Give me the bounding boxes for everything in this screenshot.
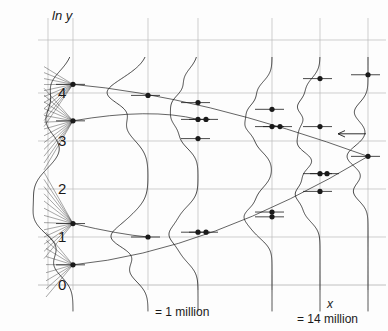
y-tick-label-0: 0 xyxy=(58,276,66,293)
y-axis-label: ln y xyxy=(52,8,72,23)
data-point-markers xyxy=(70,72,370,267)
y-tick-label-1: 1 xyxy=(58,228,66,245)
y-tick-label-3: 3 xyxy=(58,132,66,149)
scientific-figure: ln y 4 3 2 1 0 = 1 million x = 14 millio… xyxy=(0,0,388,331)
connector-arcs xyxy=(73,84,368,264)
y-tick-label-4: 4 xyxy=(58,84,66,101)
annotation-arrow xyxy=(338,131,366,137)
density-curves xyxy=(33,57,368,311)
x-tick-caption-right: = 14 million xyxy=(297,312,358,326)
y-tick-label-2: 2 xyxy=(58,180,66,197)
x-tick-caption-left: = 1 million xyxy=(155,305,209,319)
horizontal-gridlines xyxy=(38,40,386,285)
x-axis-label: x xyxy=(327,297,333,311)
point-tick-marks xyxy=(56,75,380,265)
